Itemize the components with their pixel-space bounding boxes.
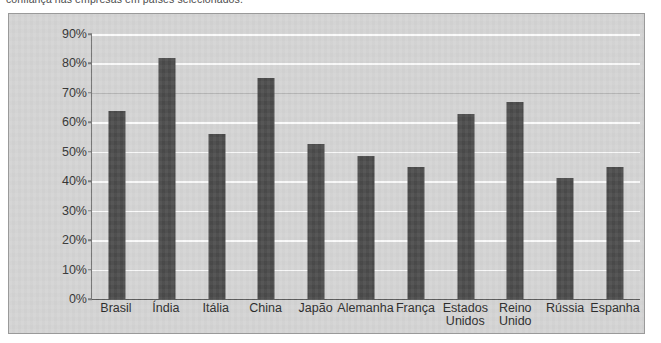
bar[interactable]	[208, 134, 225, 299]
bar-slot	[241, 34, 291, 299]
y-tick-label: 90%	[62, 28, 87, 41]
y-tick-label: 10%	[62, 263, 87, 276]
bar-slot	[92, 34, 142, 299]
bar-slot	[192, 34, 242, 299]
y-tick-label: 80%	[62, 57, 87, 70]
bar-series	[92, 34, 640, 299]
x-tick-label: Espanha	[590, 302, 639, 315]
bar-slot	[540, 34, 590, 299]
x-axis-labels: BrasilÍndiaItáliaChinaJapãoAlemanhaFranç…	[91, 301, 640, 335]
x-tick-label: Rússia	[546, 302, 584, 315]
bar[interactable]	[507, 102, 524, 299]
x-tick-label: Estados Unidos	[443, 302, 488, 327]
bar-slot	[590, 34, 640, 299]
bar[interactable]	[407, 167, 424, 300]
bar[interactable]	[357, 156, 374, 299]
y-tick-label: 50%	[62, 146, 87, 159]
x-tick-label: Alemanha	[337, 302, 393, 315]
bar-slot	[142, 34, 192, 299]
y-tick-label: 60%	[62, 116, 87, 129]
plot-area: 0%10%20%30%40%50%60%70%80%90%	[91, 34, 640, 300]
x-tick-label: Reino Unido	[499, 302, 532, 327]
x-tick-label: China	[249, 302, 282, 315]
chart-caption: confiança nas empresas em países selecio…	[6, 0, 243, 5]
bar[interactable]	[557, 178, 574, 299]
chart-frame: 0%10%20%30%40%50%60%70%80%90% BrasilÍndi…	[8, 13, 645, 334]
bar-slot	[491, 34, 541, 299]
bar[interactable]	[108, 111, 125, 299]
bar-slot	[391, 34, 441, 299]
bar-slot	[341, 34, 391, 299]
bar[interactable]	[607, 167, 624, 300]
bar[interactable]	[258, 78, 275, 299]
bar[interactable]	[158, 58, 175, 299]
x-tick-label: Japão	[299, 302, 333, 315]
bar-slot	[291, 34, 341, 299]
y-tick-label: 70%	[62, 87, 87, 100]
bar[interactable]	[308, 144, 325, 299]
y-tick-label: 20%	[62, 234, 87, 247]
bar-slot	[441, 34, 491, 299]
y-tick-label: 40%	[62, 175, 87, 188]
x-tick-label: Itália	[203, 302, 229, 315]
x-tick-label: Brasil	[100, 302, 131, 315]
x-tick-label: França	[396, 302, 435, 315]
x-tick-label: Índia	[152, 302, 179, 315]
bar[interactable]	[457, 114, 474, 300]
y-tick-label: 30%	[62, 204, 87, 217]
y-tick-label: 0%	[69, 293, 87, 306]
